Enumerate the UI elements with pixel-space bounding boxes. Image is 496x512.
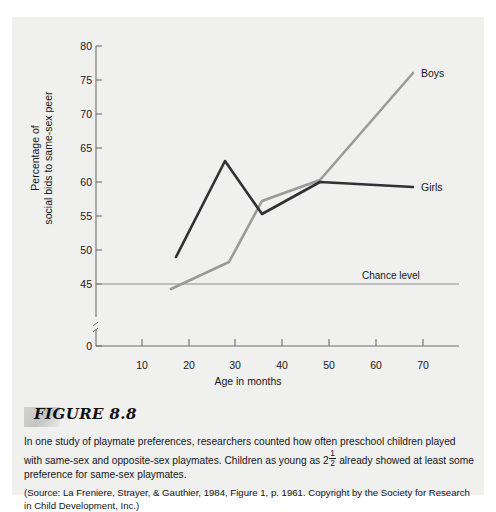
- x-axis-label: Age in months: [12, 375, 484, 387]
- y-tick-45: 45: [80, 278, 92, 290]
- page-top-text-remnant: . . . .: [250, 0, 440, 10]
- y-tick-marks: [96, 46, 102, 346]
- series-label-girls: Girls: [421, 181, 443, 193]
- figure-page: . . . .: [0, 0, 496, 512]
- y-tick-80: 80: [80, 40, 92, 52]
- x-tick-60: 60: [370, 359, 382, 371]
- x-tick-30: 30: [229, 359, 241, 371]
- x-tick-10: 10: [136, 359, 148, 371]
- series-label-boys: Boys: [421, 67, 444, 79]
- figure-panel: 80 75 70 65 60 55 50 45 0 10 20 30 40 50…: [12, 17, 484, 495]
- x-tick-70: 70: [417, 359, 429, 371]
- x-tick-20: 20: [183, 359, 195, 371]
- figure-source-text: (Source: La Freniere, Strayer, & Gauthie…: [24, 486, 476, 512]
- y-tick-50: 50: [80, 244, 92, 256]
- figure-caption-text: In one study of playmate preferences, re…: [24, 435, 476, 483]
- figure-number: FIGURE 8.8: [34, 405, 137, 423]
- figure-tag: FIGURE 8.8: [24, 405, 484, 431]
- y-tick-75: 75: [80, 74, 92, 86]
- x-axis-tick-labels: 10 20 30 40 50 60 70: [12, 359, 484, 375]
- y-tick-60: 60: [80, 176, 92, 188]
- x-tick-40: 40: [276, 359, 288, 371]
- y-tick-55: 55: [80, 210, 92, 222]
- y-tick-0: 0: [86, 340, 92, 352]
- fraction-one-half: 12: [329, 449, 336, 467]
- fraction-denominator: 2: [329, 459, 336, 467]
- line-chart: 80 75 70 65 60 55 50 45 0 10 20 30 40 50…: [12, 17, 484, 377]
- series-line-girls: [176, 161, 413, 257]
- y-axis-tick-labels: 80 75 70 65 60 55 50 45 0: [60, 17, 92, 337]
- chance-level-label: Chance level: [362, 270, 420, 281]
- x-tick-50: 50: [323, 359, 335, 371]
- y-tick-65: 65: [80, 142, 92, 154]
- figure-caption-block: FIGURE 8.8 In one study of playmate pref…: [24, 405, 484, 512]
- y-tick-70: 70: [80, 108, 92, 120]
- series-line-boys: [171, 73, 413, 289]
- x-tick-marks: [142, 339, 423, 346]
- y-axis-label: Percentage of social bids to same-sex pe…: [29, 83, 55, 233]
